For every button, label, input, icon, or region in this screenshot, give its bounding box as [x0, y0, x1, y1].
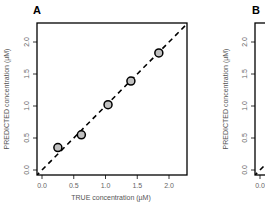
- panel-a-x-tick-label: 2.0: [164, 182, 174, 189]
- panel-b-y-tick-label: 0.0: [241, 165, 248, 175]
- panel-a-data-point: [127, 77, 135, 85]
- panel-a-y-tick-label: 0.5: [23, 133, 30, 143]
- panel-b-y-axis-label: PREDICTED concentration (µM): [222, 49, 230, 150]
- panel-a-reference-line: [29, 16, 194, 182]
- panel-b-plot-frame: [255, 23, 265, 175]
- panel-b-reference-line: [247, 16, 265, 182]
- panel-a-data-point: [104, 101, 112, 109]
- panel-a-x-axis-label: TRUE concentration (µM): [71, 194, 151, 202]
- figure: A TRUE concentration (µM) PREDICTED conc…: [0, 0, 265, 215]
- panel-a-x-tick-label: 0.5: [69, 182, 79, 189]
- panel-a-y-tick-label: 0.0: [23, 165, 30, 175]
- panel-a-label: A: [33, 4, 41, 16]
- panel-a-data-point: [155, 49, 163, 57]
- panel-a-y-tick-label: 2.0: [23, 37, 30, 47]
- panel-a-data-point: [77, 131, 85, 139]
- panel-b-y-tick-label: 1.5: [241, 69, 248, 79]
- panel-b: B PREDICTED concentration (µM) 0.00.51.0…: [222, 4, 265, 189]
- panel-a-y-axis-label: PREDICTED concentration (µM): [3, 49, 11, 150]
- panel-a-y-tick-label: 1.5: [23, 69, 30, 79]
- panel-a-x-tick-label: 0.0: [37, 182, 47, 189]
- panel-a: A TRUE concentration (µM) PREDICTED conc…: [3, 4, 194, 202]
- panel-a-data-point: [54, 144, 62, 152]
- panel-a-x-tick-label: 1.0: [101, 182, 111, 189]
- panel-a-x-tick-label: 1.5: [132, 182, 142, 189]
- panel-b-y-tick-label: 0.5: [241, 133, 248, 143]
- panel-b-y-tick-label: 2.0: [241, 37, 248, 47]
- panel-b-y-tick-label: 1.0: [241, 101, 248, 111]
- panel-b-x-tick-label: 0.0: [255, 182, 265, 189]
- panel-b-label: B: [252, 4, 260, 16]
- panel-a-y-tick-label: 1.0: [23, 101, 30, 111]
